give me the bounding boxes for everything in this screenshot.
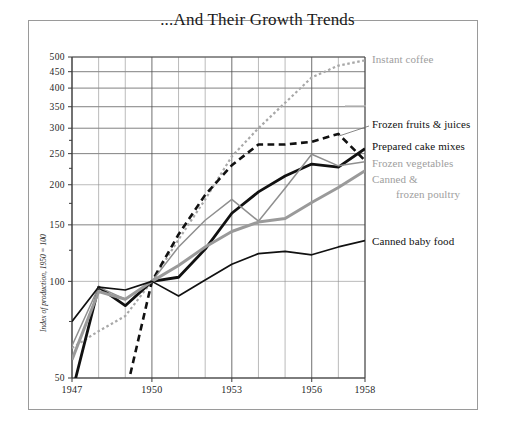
y-tick-label-450: 450	[50, 67, 65, 77]
y-tick-label-400: 400	[50, 83, 65, 93]
y-tick-label-500: 500	[50, 52, 65, 62]
series-label-frozen-poultry: frozen poultry	[396, 188, 460, 200]
series-line-prepared-cake-mixes	[72, 149, 365, 393]
series-line-canned-frozen-poultry	[72, 171, 365, 360]
x-tick-label-1958: 1958	[354, 384, 375, 395]
y-tick-label-300: 300	[50, 123, 65, 133]
x-tick-label-1947: 1947	[61, 384, 82, 395]
y-tick-label-200: 200	[50, 180, 65, 190]
y-axis-title: Index of production, 1950 = 100	[39, 234, 48, 333]
x-tick-label-1953: 1953	[221, 384, 242, 395]
series-line-frozen-vegetables	[72, 154, 365, 346]
series-line-canned-baby-food	[72, 241, 365, 322]
x-tick-label-1950: 1950	[141, 384, 162, 395]
series-group	[72, 60, 365, 395]
y-tick-label-50: 50	[55, 373, 65, 383]
y-tick-label-150: 150	[50, 220, 65, 230]
series-line-frozen-fruits-juices	[125, 134, 365, 396]
series-label-canned: Canned &	[372, 173, 418, 185]
series-label-instant-coffee: Instant coffee	[372, 53, 433, 65]
y-tick-label-100: 100	[50, 277, 65, 287]
leader-line-frozen-fruits-juices	[339, 126, 369, 136]
y-tick-label-250: 250	[50, 149, 65, 159]
chart-plot-area: 5010015020025030035040045050019471950195…	[0, 0, 515, 432]
x-tick-label-1956: 1956	[301, 384, 322, 395]
series-label-prepared-cake-mixes: Prepared cake mixes	[372, 140, 465, 152]
growth-trends-line-chart: 5010015020025030035040045050019471950195…	[0, 0, 515, 432]
series-label-frozen-vegetables: Frozen vegetables	[372, 157, 453, 169]
y-tick-label-350: 350	[50, 102, 65, 112]
series-label-canned-baby-food: Canned baby food	[372, 235, 455, 247]
series-line-instant-coffee	[72, 60, 365, 348]
series-label-frozen-fruits-juices: Frozen fruits & juices	[372, 118, 470, 130]
